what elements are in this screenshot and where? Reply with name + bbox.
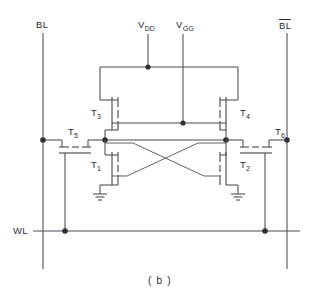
t1-label: T1 bbox=[91, 160, 101, 172]
circuit-schematic bbox=[0, 0, 329, 306]
bitline-left-label: BL bbox=[36, 20, 48, 30]
vgg-label-base: V bbox=[176, 19, 183, 30]
wordline-left-junction-dot bbox=[62, 228, 68, 234]
cross-couple-right-to-left bbox=[127, 143, 198, 176]
bitline-right-label: BL bbox=[279, 19, 291, 30]
vdd-junction-dot bbox=[145, 64, 150, 69]
bitline-right-text: BL bbox=[279, 19, 291, 30]
vgg-label-sub: GG bbox=[183, 25, 194, 32]
wordline-text: WL bbox=[13, 225, 28, 236]
t4-label-sub: 4 bbox=[246, 113, 250, 120]
t2-label-sub: 2 bbox=[246, 165, 250, 172]
cross-couple-left-to-right bbox=[133, 143, 204, 176]
vgg-label: VGG bbox=[176, 20, 194, 32]
bitline-left-tap-dot bbox=[40, 137, 46, 143]
t4-label: T4 bbox=[240, 108, 250, 120]
t1-label-sub: 1 bbox=[97, 165, 101, 172]
bitline-left-text: BL bbox=[36, 19, 48, 30]
t2-label: T2 bbox=[240, 160, 250, 172]
vdd-label-base: V bbox=[138, 19, 145, 30]
t3-label: T3 bbox=[91, 108, 101, 120]
t6-label: T6 bbox=[275, 127, 285, 139]
t6-label-sub: 6 bbox=[281, 132, 285, 139]
wordline-right-junction-dot bbox=[262, 228, 268, 234]
figure-caption: ( b ) bbox=[148, 275, 172, 286]
vgg-junction-dot bbox=[180, 120, 185, 125]
t3-label-sub: 3 bbox=[97, 113, 101, 120]
wordline-label: WL bbox=[13, 226, 28, 236]
figure-container: BL BL VDD VGG T3 T4 T5 T6 T1 T2 WL ( b ) bbox=[0, 0, 329, 306]
vdd-label: VDD bbox=[138, 20, 155, 32]
vdd-label-sub: DD bbox=[145, 25, 155, 32]
t5-label-sub: 5 bbox=[74, 132, 78, 139]
t5-label: T5 bbox=[68, 127, 78, 139]
